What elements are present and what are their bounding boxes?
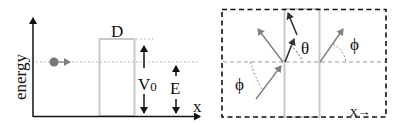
barrier-strip [285, 9, 320, 117]
diagram-canvas: energy D V0 E x θ ϕ ϕ x→ [0, 0, 406, 125]
particle-icon [50, 58, 59, 67]
dashed-boundary-box [222, 10, 386, 118]
x-axis-label: x [193, 97, 202, 116]
particle-energy-label: E [170, 79, 180, 98]
y-axis-label: energy [11, 54, 30, 100]
direction-label: x→ [350, 103, 371, 119]
phi-transmitted-label: ϕ [350, 35, 359, 54]
phi-incident-angle-arc [250, 62, 262, 89]
energy-diagram: energy D V0 E x [11, 18, 202, 117]
barrier-width-label: D [111, 22, 123, 41]
internal-reflected-ray [288, 13, 297, 35]
theta-label: θ [301, 39, 309, 58]
incident-ray [256, 66, 281, 99]
refracted-ray [285, 39, 294, 62]
refraction-diagram: θ ϕ ϕ x→ [222, 9, 386, 119]
potential-barrier [100, 39, 135, 116]
phi-transmitted-angle-arc [333, 44, 346, 62]
transmitted-ray [320, 29, 343, 62]
phi-incident-label: ϕ [235, 75, 244, 94]
reflected-ray [258, 29, 283, 62]
barrier-height-label: V0 [138, 75, 157, 94]
